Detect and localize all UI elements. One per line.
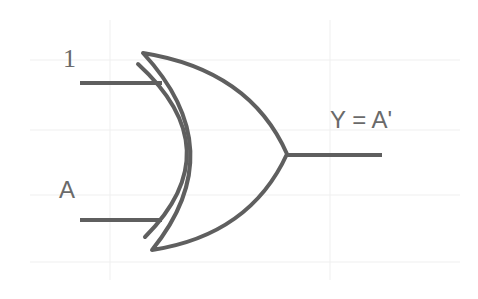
xor-gate-diagram: 1 A Y = A' [0, 0, 478, 299]
or-gate-body [143, 53, 287, 250]
input-label-1: 1 [63, 46, 76, 72]
background-grid [30, 20, 460, 280]
xor-extra-input-arc [138, 64, 187, 237]
input-label-a: A [59, 178, 75, 202]
output-label: Y = A' [330, 108, 392, 132]
